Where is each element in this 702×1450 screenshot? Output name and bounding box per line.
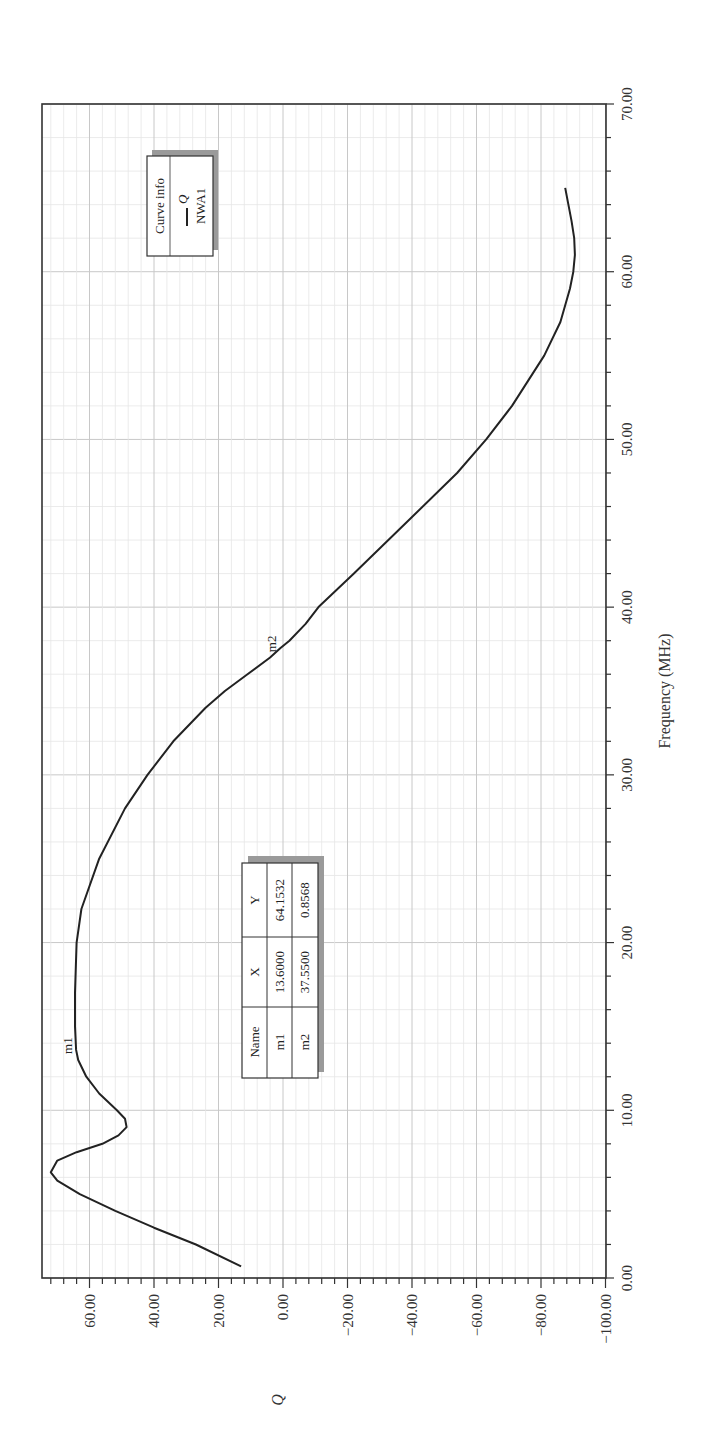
legend-curve-info: Curve info Q NWA1: [147, 150, 218, 256]
q-tick-label: −80.00: [533, 1294, 549, 1336]
legend-title: Curve info: [152, 178, 167, 234]
frequency-axis-tick-labels: 0.0010.0020.0030.0040.0050.0060.0070.00: [619, 87, 635, 1291]
frequency-tick-label: 40.00: [619, 590, 635, 624]
q-tick-label: −40.00: [404, 1294, 420, 1336]
legend-entry-label: Q: [175, 194, 190, 204]
q-tick-label: −60.00: [469, 1294, 485, 1336]
grid-lines: [42, 104, 606, 1278]
marker-table: Name X Y m1 13.6000 64.1532 m2 37.5500 0…: [242, 856, 324, 1078]
table-cell-m2-name: m2: [297, 1034, 312, 1051]
q-vs-frequency-chart: 0.0010.0020.0030.0040.0050.0060.0070.00 …: [0, 0, 702, 1450]
marker-label-m1: m1: [60, 1037, 75, 1054]
q-axis-tick-labels: 60.0040.0020.000.00−20.00−40.00−60.00−80…: [82, 1294, 614, 1344]
table-cell-m1-y: 64.1532: [272, 879, 287, 921]
q-tick-label: −100.00: [598, 1294, 614, 1344]
q-tick-label: 40.00: [146, 1294, 162, 1328]
frequency-tick-label: 70.00: [619, 87, 635, 121]
q-tick-label: 20.00: [211, 1294, 227, 1328]
legend-entry-source: NWA1: [193, 188, 208, 224]
frequency-tick-label: 10.00: [619, 1093, 635, 1127]
table-header-x: X: [247, 967, 262, 977]
plot-frame: [42, 104, 606, 1278]
table-cell-m1-name: m1: [272, 1034, 287, 1051]
table-cell-m2-y: 0.8568: [297, 882, 312, 918]
frequency-tick-label: 20.00: [619, 926, 635, 960]
frequency-tick-label: 50.00: [619, 423, 635, 457]
q-axis-title: Q: [269, 1394, 286, 1406]
frequency-tick-label: 0.00: [619, 1265, 635, 1291]
frequency-tick-label: 30.00: [619, 758, 635, 792]
q-tick-label: −20.00: [340, 1294, 356, 1336]
table-cell-m2-x: 37.5500: [297, 951, 312, 993]
table-cell-m1-x: 13.6000: [272, 951, 287, 993]
frequency-axis-title: Frequency (MHz): [656, 633, 674, 748]
table-header-y: Y: [247, 895, 262, 905]
q-curve-line: [51, 188, 575, 1266]
q-tick-label: 60.00: [82, 1294, 98, 1328]
table-header-name: Name: [247, 1026, 262, 1057]
frequency-tick-label: 60.00: [619, 255, 635, 289]
q-tick-label: 0.00: [275, 1294, 291, 1320]
marker-label-m2: m2: [264, 636, 279, 653]
